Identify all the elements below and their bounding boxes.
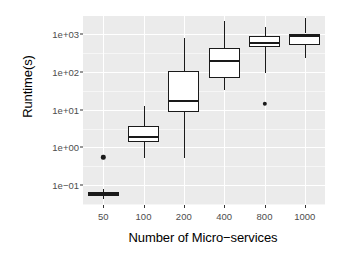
whisker-lower xyxy=(265,47,266,73)
whisker-lower xyxy=(103,196,104,199)
x-tick-mark xyxy=(144,205,145,208)
y-tick-label: 1e+03 xyxy=(33,29,79,40)
x-tick-mark xyxy=(265,205,266,208)
gridline-minor xyxy=(83,91,325,92)
whisker-lower xyxy=(184,112,185,158)
gridline-major xyxy=(83,147,325,148)
median-line xyxy=(249,42,280,44)
y-tick-label: 1e+00 xyxy=(33,142,79,153)
gridline-major xyxy=(83,72,325,73)
whisker-upper xyxy=(305,18,306,33)
whisker-upper xyxy=(224,21,225,48)
x-tick-label: 100 xyxy=(124,211,164,222)
whisker-upper xyxy=(265,27,266,35)
median-line xyxy=(289,35,320,37)
y-tick-label: 1e+01 xyxy=(33,104,79,115)
median-line xyxy=(209,60,240,62)
x-tick-label: 200 xyxy=(164,211,204,222)
whisker-lower xyxy=(305,45,306,58)
x-tick-label: 50 xyxy=(83,211,123,222)
box-iqr xyxy=(128,126,159,143)
gridline-major xyxy=(83,185,325,186)
x-tick-mark xyxy=(184,205,185,208)
median-line xyxy=(88,193,119,195)
x-tick-label: 400 xyxy=(204,211,244,222)
x-tick-mark xyxy=(224,205,225,208)
boxplot-chart: Runtime(s) 1e+031e+021e+011e+001e−01 501… xyxy=(0,0,347,257)
x-tick-label: 800 xyxy=(245,211,285,222)
box-iqr xyxy=(168,71,199,112)
whisker-lower xyxy=(144,142,145,158)
whisker-upper xyxy=(184,38,185,71)
x-axis-title: Number of Micro−services xyxy=(80,230,326,245)
median-line xyxy=(168,100,199,102)
gridline-major xyxy=(83,110,325,111)
outlier-point xyxy=(101,155,105,159)
y-axis: 1e+031e+021e+011e+001e−01 xyxy=(26,0,79,257)
gridline-minor xyxy=(83,53,325,54)
gridline-minor xyxy=(83,204,325,205)
whisker-upper xyxy=(144,106,145,126)
box-iqr xyxy=(209,48,240,78)
outlier-point xyxy=(262,102,266,106)
median-line xyxy=(128,136,159,138)
gridline-minor xyxy=(83,166,325,167)
gridline-vertical xyxy=(103,16,104,205)
y-tick-label: 1e+02 xyxy=(33,66,79,77)
plot-panel xyxy=(83,16,325,205)
x-tick-mark xyxy=(103,205,104,208)
x-tick-mark xyxy=(305,205,306,208)
gridline-minor xyxy=(83,129,325,130)
y-tick-label: 1e−01 xyxy=(33,180,79,191)
x-tick-label: 1000 xyxy=(285,211,325,222)
whisker-lower xyxy=(224,78,225,90)
